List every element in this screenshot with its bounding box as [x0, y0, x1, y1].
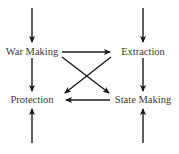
node-war-making: War Making: [6, 46, 59, 58]
arrow-war-making-to-state-making: [62, 57, 109, 93]
node-state-making: State Making: [115, 94, 171, 106]
arrow-extraction-to-protection: [65, 57, 111, 93]
arrows-layer: [0, 0, 179, 154]
node-protection: Protection: [10, 94, 53, 106]
diagram-canvas: War Making Extraction Protection State M…: [0, 0, 179, 154]
node-extraction: Extraction: [121, 46, 165, 58]
